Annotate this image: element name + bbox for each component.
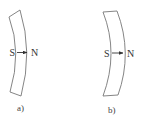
figure-b: S N b) bbox=[103, 11, 134, 115]
caption-a: a) bbox=[17, 103, 24, 113]
caption-b: b) bbox=[108, 105, 116, 115]
north-label-b: N bbox=[127, 48, 134, 59]
magnet-diagram: S N a) S N b) bbox=[0, 0, 143, 123]
south-label-a: S bbox=[10, 47, 16, 58]
figure-a: S N a) bbox=[9, 10, 38, 113]
south-label-b: S bbox=[104, 48, 110, 59]
north-label-a: N bbox=[31, 47, 38, 58]
